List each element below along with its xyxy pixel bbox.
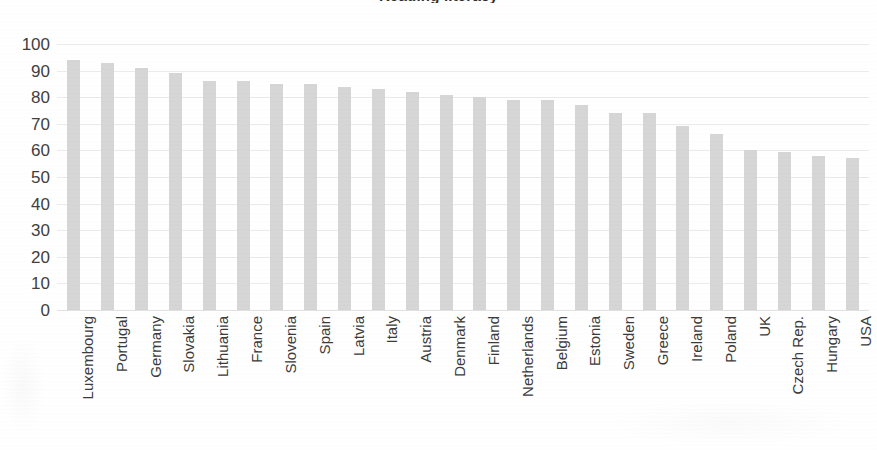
bar xyxy=(338,87,351,310)
bar xyxy=(507,100,520,310)
x-axis: LuxembourgPortugalGermanySlovakiaLithuan… xyxy=(57,312,869,450)
bar xyxy=(372,89,385,310)
bar xyxy=(812,156,825,310)
bar xyxy=(744,150,757,310)
x-tick-label: Sweden xyxy=(621,316,636,370)
bar xyxy=(203,81,216,310)
bar-chart-figure: Reading literacy 1009080706050403020100 … xyxy=(0,0,877,450)
x-tick-label: Netherlands xyxy=(520,316,535,397)
bar xyxy=(846,158,859,310)
bar xyxy=(406,92,419,310)
x-tick-label: Latvia xyxy=(351,316,366,356)
bar xyxy=(67,60,80,310)
x-tick-label: Finland xyxy=(486,316,501,365)
x-tick-label: Germany xyxy=(148,316,163,378)
y-tick-label: 0 xyxy=(0,302,50,319)
x-tick-label: Slovakia xyxy=(181,316,196,373)
bar xyxy=(304,84,317,310)
y-axis: 1009080706050403020100 xyxy=(0,44,50,310)
x-tick-label: Ireland xyxy=(689,316,704,362)
y-tick-label: 80 xyxy=(0,89,50,106)
bar xyxy=(541,100,554,310)
y-tick-label: 90 xyxy=(0,62,50,79)
y-tick-label: 70 xyxy=(0,115,50,132)
bar xyxy=(710,134,723,310)
y-tick-label: 100 xyxy=(0,36,50,53)
bar xyxy=(270,84,283,310)
x-tick-label: Lithuania xyxy=(215,316,230,377)
x-tick-label: USA xyxy=(858,316,873,347)
bar xyxy=(101,63,114,310)
x-tick-label: Belgium xyxy=(554,316,569,370)
gridline xyxy=(57,310,869,311)
x-tick-label: Greece xyxy=(655,316,670,365)
bar xyxy=(609,113,622,310)
x-tick-label: Spain xyxy=(317,316,332,354)
y-tick-label: 10 xyxy=(0,275,50,292)
x-tick-label: Italy xyxy=(384,316,399,344)
y-tick-label: 50 xyxy=(0,169,50,186)
y-tick-label: 30 xyxy=(0,222,50,239)
gridline xyxy=(57,44,869,45)
scan-smudge-left xyxy=(0,336,46,436)
x-tick-label: Estonia xyxy=(587,316,602,366)
bar xyxy=(169,73,182,310)
x-tick-label: Portugal xyxy=(114,316,129,372)
gridline xyxy=(57,71,869,72)
bar xyxy=(473,97,486,310)
bar xyxy=(237,81,250,310)
bar xyxy=(676,126,689,310)
plot-area xyxy=(57,44,869,310)
y-tick-label: 20 xyxy=(0,248,50,265)
bar xyxy=(643,113,656,310)
x-tick-label: Czech Rep. xyxy=(790,316,805,394)
bar xyxy=(778,152,791,310)
x-tick-label: France xyxy=(249,316,264,363)
x-tick-label: Hungary xyxy=(824,316,839,373)
bar xyxy=(440,95,453,310)
x-tick-label: Slovenia xyxy=(283,316,298,374)
x-tick-label: Poland xyxy=(723,316,738,363)
bar xyxy=(135,68,148,310)
bar xyxy=(575,105,588,310)
x-tick-label: Luxembourg xyxy=(80,316,95,399)
y-tick-label: 40 xyxy=(0,195,50,212)
x-tick-label: Denmark xyxy=(452,316,467,377)
chart-title: Reading literacy xyxy=(0,0,877,3)
x-tick-label: Austria xyxy=(418,316,433,363)
y-tick-label: 60 xyxy=(0,142,50,159)
x-tick-label: UK xyxy=(757,316,772,337)
